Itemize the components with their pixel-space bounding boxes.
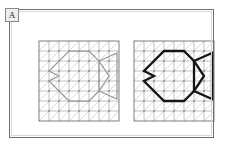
grid-panel-right[interactable] xyxy=(134,41,219,126)
right-panel-canvas xyxy=(134,41,219,126)
grid-panel-left[interactable] xyxy=(39,41,124,126)
left-panel-canvas xyxy=(39,41,124,126)
panel-label-a: A xyxy=(5,8,19,22)
grid-lines-left xyxy=(39,41,119,121)
figure-frame xyxy=(9,9,214,138)
